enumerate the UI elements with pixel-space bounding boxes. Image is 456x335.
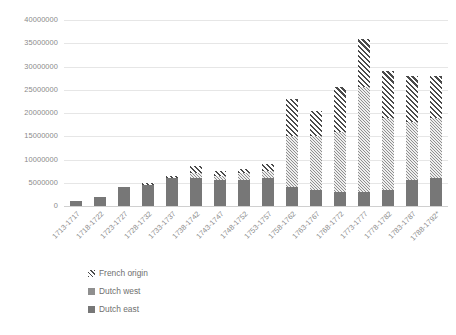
bar-segment[interactable]: [358, 87, 370, 192]
bar-segment[interactable]: [382, 118, 394, 190]
bar-group[interactable]: [430, 76, 442, 206]
bar-group[interactable]: [118, 187, 130, 206]
bar-segment[interactable]: [190, 173, 202, 178]
legend-swatch-icon: [88, 270, 95, 277]
bar-segment[interactable]: [430, 76, 442, 118]
bar-segment[interactable]: [430, 178, 442, 206]
legend-swatch-icon: [88, 306, 95, 313]
bar-segment[interactable]: [382, 71, 394, 118]
bar-segment[interactable]: [286, 187, 298, 206]
y-axis-tick-label: 20000000: [24, 109, 58, 116]
bar-segment[interactable]: [94, 197, 106, 206]
bar-group[interactable]: [94, 197, 106, 206]
bar-group[interactable]: [238, 169, 250, 206]
plot-area: [64, 20, 448, 206]
y-axis-tick-label: 35000000: [24, 40, 58, 47]
bar-group[interactable]: [334, 87, 346, 206]
legend-item[interactable]: French origin: [88, 264, 248, 282]
bar-group[interactable]: [142, 183, 154, 206]
bar-group[interactable]: [382, 71, 394, 206]
bar-segment[interactable]: [214, 171, 226, 176]
bar-segment[interactable]: [262, 171, 274, 178]
legend-item[interactable]: Dutch east: [88, 300, 248, 318]
legend-label: French origin: [99, 269, 148, 277]
bar-segment[interactable]: [238, 169, 250, 174]
bar-segment[interactable]: [166, 176, 178, 178]
bar-segment[interactable]: [286, 136, 298, 187]
bar-group[interactable]: [214, 171, 226, 206]
bar-segment[interactable]: [358, 39, 370, 88]
bar-segment[interactable]: [358, 192, 370, 206]
bar-series-container: [64, 20, 448, 206]
legend-label: Dutch west: [99, 287, 140, 295]
bar-segment[interactable]: [406, 180, 418, 206]
bar-segment[interactable]: [310, 111, 322, 137]
y-axis-tick-label: 15000000: [24, 133, 58, 140]
bar-segment[interactable]: [262, 164, 274, 171]
bar-segment[interactable]: [334, 87, 346, 131]
bar-group[interactable]: [310, 111, 322, 206]
y-axis-labels: 4000000035000000300000002500000020000000…: [0, 20, 58, 206]
bar-segment[interactable]: [118, 187, 130, 206]
y-axis-tick-label: 10000000: [24, 156, 58, 163]
bar-segment[interactable]: [310, 136, 322, 189]
bar-group[interactable]: [358, 39, 370, 206]
bar-segment[interactable]: [406, 76, 418, 123]
y-axis-tick-label: 5000000: [29, 179, 58, 186]
chart-legend: French originDutch westDutch east: [88, 264, 248, 318]
bar-group[interactable]: [286, 99, 298, 206]
bar-group[interactable]: [262, 164, 274, 206]
bar-segment[interactable]: [190, 178, 202, 206]
bar-segment[interactable]: [310, 190, 322, 206]
bar-segment[interactable]: [142, 183, 154, 185]
y-axis-tick-label: 30000000: [24, 63, 58, 70]
legend-label: Dutch east: [99, 305, 139, 313]
bar-segment[interactable]: [430, 118, 442, 178]
bar-segment[interactable]: [382, 190, 394, 206]
bar-segment[interactable]: [166, 178, 178, 206]
bar-group[interactable]: [190, 166, 202, 206]
bar-segment[interactable]: [334, 192, 346, 206]
bar-segment[interactable]: [406, 122, 418, 180]
bar-segment[interactable]: [142, 185, 154, 206]
y-axis-tick-label: 0: [54, 202, 58, 209]
bar-segment[interactable]: [262, 178, 274, 206]
x-axis-labels: 1713-17171718-17221723-17271728-17321733…: [64, 206, 448, 266]
y-axis-tick-label: 40000000: [24, 16, 58, 23]
bar-segment[interactable]: [190, 166, 202, 173]
bar-segment[interactable]: [286, 99, 298, 136]
bar-segment[interactable]: [214, 180, 226, 206]
bar-segment[interactable]: [238, 173, 250, 180]
y-axis-tick-label: 25000000: [24, 86, 58, 93]
legend-item[interactable]: Dutch west: [88, 282, 248, 300]
bar-segment[interactable]: [214, 176, 226, 181]
bar-group[interactable]: [166, 176, 178, 206]
stacked-bar-chart: 4000000035000000300000002500000020000000…: [0, 0, 456, 335]
bar-group[interactable]: [406, 76, 418, 206]
bar-segment[interactable]: [238, 180, 250, 206]
bar-segment[interactable]: [334, 132, 346, 192]
legend-swatch-icon: [88, 288, 95, 295]
